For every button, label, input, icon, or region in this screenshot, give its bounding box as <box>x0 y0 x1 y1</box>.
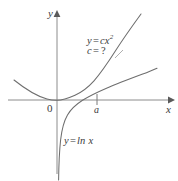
coefficient-eq-sign: = <box>92 45 100 56</box>
parabola-eq-exponent: 2 <box>110 33 114 41</box>
x-axis-label: x <box>166 104 171 115</box>
y-axis-label: y <box>48 8 53 19</box>
y-axis-arrowhead <box>54 10 61 17</box>
math-figure: y x 0 a y=cx2 c=? y=ln x <box>0 0 178 181</box>
parabola-coefficient-label: c=? <box>87 46 107 57</box>
log-eq-rhs: ln x <box>77 135 93 146</box>
curve-logarithm <box>59 68 157 180</box>
parabola-eq-rhs: cx <box>100 35 110 46</box>
logarithm-equation-label: y=ln x <box>64 136 93 147</box>
curve-parabola <box>14 14 141 100</box>
x-tick-label-a: a <box>94 105 99 115</box>
annotation-leader-line <box>115 50 123 58</box>
parabola-eq-sign: = <box>92 35 100 46</box>
plot-canvas <box>0 0 178 181</box>
coefficient-unknown: ? <box>100 45 107 56</box>
origin-label: 0 <box>47 103 53 114</box>
log-eq-sign: = <box>69 135 77 146</box>
